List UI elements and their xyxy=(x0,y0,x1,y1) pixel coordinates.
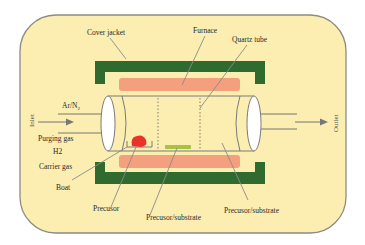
label-quartz-tube: Quartz tube xyxy=(232,35,268,44)
label-cover-jacket: Cover jacket xyxy=(87,28,126,37)
tube-end-left xyxy=(101,96,115,151)
substrate xyxy=(165,145,191,149)
label-outlet: Outlet xyxy=(332,114,340,132)
furnace-top xyxy=(119,78,240,91)
ar-n2-text: Ar/N xyxy=(62,101,78,110)
tube-end-right xyxy=(247,96,261,151)
label-inlet: Inlet xyxy=(28,114,36,127)
label-h2: H2 xyxy=(53,147,62,156)
cvd-furnace-diagram: Cover jacket Furnace Quartz tube Ar/N2 P… xyxy=(0,0,365,245)
label-purging-gas: Purging gas xyxy=(38,134,74,143)
label-precursor-substrate-2: Precusor/substrate xyxy=(224,206,280,215)
label-furnace: Furnace xyxy=(193,26,218,35)
label-precursor: Precusor xyxy=(93,204,120,213)
furnace-bottom xyxy=(119,155,240,168)
label-carrier-gas: Carrier gas xyxy=(39,162,72,171)
label-boat: Boat xyxy=(56,183,71,192)
label-precursor-substrate-1: Precusor/substrate xyxy=(146,213,202,222)
